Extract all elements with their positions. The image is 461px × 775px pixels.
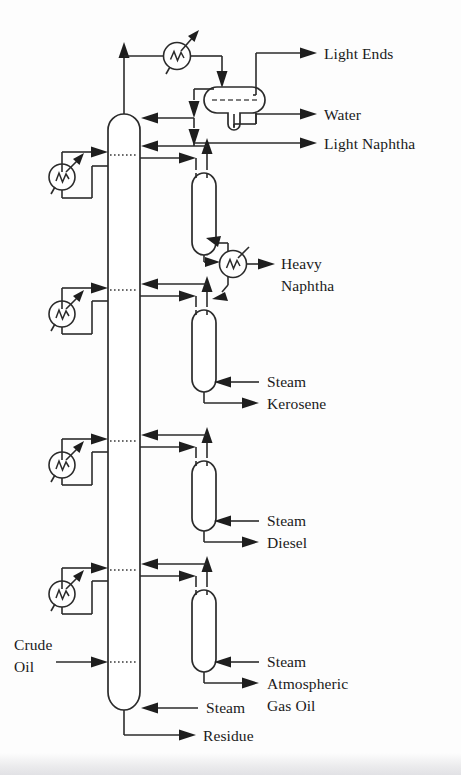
arrowhead-right (300, 48, 317, 59)
label-steam-kerosene: Steam (267, 373, 306, 390)
label-steam-bottom: Steam (206, 699, 245, 716)
diesel-stripper (192, 461, 216, 531)
pumparound-cooler-2 (49, 283, 108, 335)
kerosene-stripper-shell (192, 310, 216, 392)
arrowhead-right (300, 138, 317, 149)
arrowhead-right (179, 153, 196, 164)
overhead-condenser (164, 30, 200, 74)
arrowhead-right (91, 434, 108, 445)
pfd-canvas: Light Ends Water Light Naphtha (0, 0, 461, 775)
label-crude-line2: Oil (14, 658, 34, 675)
reflux-return-line (141, 113, 194, 124)
overhead-condenser-body (164, 43, 191, 70)
steam-column-bottom: Steam (141, 699, 245, 716)
arrowhead-right (242, 537, 259, 548)
condenser-to-drum-line (191, 56, 228, 88)
diesel-stripper-shell (192, 461, 216, 531)
arrowhead-right (91, 563, 108, 574)
arrowhead-right (242, 398, 259, 409)
arrowhead-down (189, 101, 200, 118)
label-ago-line2: Gas Oil (267, 697, 316, 714)
ago-draw (140, 556, 213, 587)
arrowhead-right (300, 109, 317, 120)
steam-ago-stripper: Steam (214, 653, 306, 670)
label-residue: Residue (203, 727, 254, 744)
label-kerosene: Kerosene (267, 395, 326, 412)
kerosene-stripper (192, 310, 216, 392)
diesel-draw (140, 427, 213, 458)
pumparound-cooler-3 (49, 434, 108, 486)
label-crude-line1: Crude (14, 636, 52, 653)
kerosene-draw (140, 276, 213, 307)
arrowhead-down-left (212, 292, 228, 301)
arrowhead-right (179, 442, 196, 453)
label-steam-ago: Steam (267, 653, 306, 670)
label-diesel: Diesel (267, 534, 307, 551)
arrowhead-right (205, 257, 220, 267)
arrowhead-left (141, 279, 158, 290)
arrowhead-left (141, 141, 158, 152)
label-ago-line1: Atmospheric (267, 675, 348, 692)
label-light-naphtha: Light Naphtha (324, 135, 415, 152)
main-column (108, 114, 140, 710)
arrowhead-right (91, 147, 108, 158)
arrowhead-right (258, 259, 275, 270)
arrowhead-right (179, 571, 196, 582)
steam-kerosene-stripper: Steam (214, 373, 306, 390)
light-naphtha-stream: Light Naphtha (194, 135, 415, 152)
label-light-ends: Light Ends (324, 45, 393, 62)
diesel-product: Diesel (204, 531, 307, 551)
arrowhead-down (217, 71, 228, 88)
overhead-vapor-line (119, 42, 164, 114)
arrowhead-left (141, 559, 158, 570)
arrowhead-right (91, 283, 108, 294)
arrowhead-left (141, 430, 158, 441)
steam-diesel-stripper: Steam (214, 512, 306, 529)
arrowhead-right (91, 657, 108, 668)
label-heavy-naphtha-line2: Naphtha (281, 277, 334, 294)
label-water: Water (324, 106, 362, 123)
arrowhead-right (242, 678, 259, 689)
process-flow-diagram: Light Ends Water Light Naphtha (0, 0, 461, 775)
main-column-shell (108, 114, 140, 710)
arrowhead-left (141, 703, 158, 714)
label-heavy-naphtha-line1: Heavy (281, 255, 322, 272)
ago-stripper-shell (192, 590, 216, 672)
arrowhead-right (179, 291, 196, 302)
ago-stripper (192, 590, 216, 672)
arrowhead-right (179, 730, 196, 741)
light-ends-stream: Light Ends (253, 45, 393, 96)
heavy-naphtha-cooler: Heavy Naphtha (204, 236, 334, 301)
crude-oil-feed: Crude Oil (14, 636, 108, 675)
label-steam-diesel: Steam (267, 512, 306, 529)
pumparound-cooler-4 (49, 563, 108, 615)
kerosene-product: Kerosene (204, 392, 326, 412)
arrowhead-left (141, 113, 158, 124)
pumparound-cooler-1 (49, 147, 108, 199)
